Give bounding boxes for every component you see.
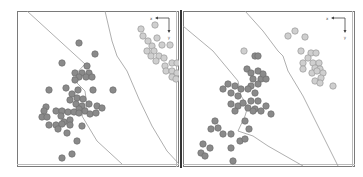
- data-point: [202, 153, 208, 159]
- data-point: [248, 98, 254, 104]
- data-point: [93, 110, 99, 116]
- data-point: [220, 131, 226, 137]
- data-point: [200, 141, 206, 147]
- data-point: [58, 113, 64, 119]
- data-point: [159, 42, 165, 48]
- data-point: [313, 50, 319, 56]
- data-point: [59, 155, 65, 161]
- scatter-panel-right: xy: [183, 11, 355, 167]
- plot-frame: [18, 12, 179, 167]
- data-point: [232, 108, 238, 114]
- data-point: [228, 131, 234, 137]
- data-point: [255, 98, 261, 104]
- scatter-plot-right: xy: [183, 11, 355, 167]
- data-point: [59, 60, 65, 66]
- data-point: [260, 71, 266, 77]
- data-point: [215, 125, 221, 131]
- data-point: [285, 33, 291, 39]
- data-point: [292, 28, 298, 34]
- data-point: [263, 103, 269, 109]
- data-point: [225, 81, 231, 87]
- panel-divider: [180, 10, 182, 168]
- data-point: [75, 87, 81, 93]
- data-point: [268, 111, 274, 117]
- data-point: [148, 53, 154, 59]
- data-point: [208, 126, 214, 132]
- data-point: [302, 34, 308, 40]
- data-point: [44, 114, 50, 120]
- data-point: [248, 70, 254, 76]
- data-point: [228, 101, 234, 107]
- data-point: [241, 48, 247, 54]
- data-point: [174, 60, 179, 66]
- data-point: [228, 90, 234, 96]
- data-point: [84, 63, 90, 69]
- data-point: [245, 86, 251, 92]
- data-point: [330, 83, 336, 89]
- data-point: [250, 76, 256, 82]
- data-point: [67, 122, 73, 128]
- data-point: [232, 83, 238, 89]
- data-point: [220, 86, 226, 92]
- data-point: [167, 42, 173, 48]
- data-point: [138, 26, 144, 32]
- data-point: [87, 111, 93, 117]
- plot-frame: [184, 12, 355, 167]
- data-point: [242, 118, 248, 124]
- data-point: [240, 100, 246, 106]
- data-point: [110, 87, 116, 93]
- data-point: [154, 35, 160, 41]
- data-point: [76, 110, 82, 116]
- data-point: [69, 151, 75, 157]
- data-point: [300, 66, 306, 72]
- data-point: [305, 55, 311, 61]
- data-point: [258, 108, 264, 114]
- data-point: [90, 87, 96, 93]
- data-point: [252, 90, 258, 96]
- data-point: [246, 126, 252, 132]
- data-point: [64, 130, 70, 136]
- data-point: [72, 77, 78, 83]
- scatter-panel-left: xy: [17, 11, 179, 167]
- data-point: [79, 123, 85, 129]
- data-point: [207, 145, 213, 151]
- data-point: [250, 108, 256, 114]
- data-point: [242, 136, 248, 142]
- data-point: [99, 105, 105, 111]
- data-point: [80, 96, 86, 102]
- data-point: [173, 76, 179, 82]
- data-point: [89, 74, 95, 80]
- data-point: [65, 109, 71, 115]
- data-point: [55, 126, 61, 132]
- data-point: [228, 145, 234, 151]
- data-point: [67, 97, 73, 103]
- data-point: [74, 138, 80, 144]
- data-point: [46, 122, 52, 128]
- data-point: [63, 85, 69, 91]
- data-point: [74, 95, 80, 101]
- data-point: [153, 58, 159, 64]
- data-point: [86, 101, 92, 107]
- data-point: [255, 81, 261, 87]
- data-point: [298, 48, 304, 54]
- data-point: [161, 55, 167, 61]
- data-point: [235, 93, 241, 99]
- data-point: [255, 53, 261, 59]
- data-point: [152, 22, 158, 28]
- data-point: [140, 33, 146, 39]
- data-point: [92, 51, 98, 57]
- data-point: [53, 108, 59, 114]
- data-point: [46, 87, 52, 93]
- data-point: [314, 68, 320, 74]
- data-point: [300, 60, 306, 66]
- data-point: [163, 68, 169, 74]
- data-point: [212, 118, 218, 124]
- data-point: [41, 108, 47, 114]
- scatter-plot-left: xy: [17, 11, 179, 167]
- data-point: [230, 158, 236, 164]
- data-point: [83, 74, 89, 80]
- data-point: [76, 40, 82, 46]
- data-point: [317, 80, 323, 86]
- data-point: [238, 86, 244, 92]
